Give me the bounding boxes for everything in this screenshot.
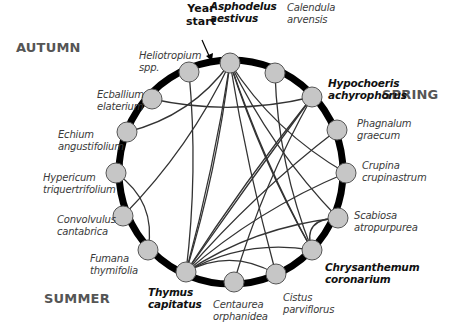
node-centaurea	[224, 272, 244, 292]
species-label-hypericum: Hypericum triquertrifolium	[43, 172, 116, 196]
species-label-ecballium: Ecballium elaterium	[97, 89, 144, 113]
node-asphodelus	[220, 53, 240, 73]
species-label-centaurea: Centaurea orphanidea	[213, 299, 268, 323]
species-label-cistus: Cistus parviflorus	[283, 292, 334, 316]
node-convolvulus	[113, 206, 133, 226]
species-label-hypochoeris: Hypochoeris achyrophorus	[328, 77, 407, 101]
species-label-scabiosa: Scabiosa atropurpurea	[354, 210, 418, 234]
species-label-crupina: Crupina crupinastrum	[362, 160, 426, 184]
node-ecballium	[142, 89, 162, 109]
node-thymus	[176, 262, 196, 282]
edge-asphodelus-chrysanthemum	[230, 63, 312, 250]
node-phagnalum	[327, 120, 347, 140]
node-cistus	[266, 264, 286, 284]
node-chrysanthemum	[302, 240, 322, 260]
edge-asphodelus-chrysanthemum	[230, 63, 312, 250]
node-calendula	[265, 63, 285, 83]
season-label-autumn: AUTUMN	[16, 40, 81, 55]
species-label-phagnalum: Phagnalum graecum	[357, 118, 411, 142]
edge-hypochoeris-centaurea	[234, 97, 312, 282]
year-start-arrow-icon	[202, 40, 213, 61]
species-label-calendula: Calendula arvensis	[287, 2, 335, 26]
species-label-asphodelus: Asphodelus aestivus	[210, 0, 277, 24]
node-crupina	[336, 163, 356, 183]
species-label-convolvulus: Convolvulus cantabrica	[57, 214, 116, 238]
season-label-summer: SUMMER	[44, 291, 110, 306]
species-label-thymus: Thymus capitatus	[148, 286, 201, 310]
node-scabiosa	[328, 208, 348, 228]
species-label-heliotropium: Heliotropium spp.	[139, 50, 201, 74]
species-label-fumana: Fumana thymifolia	[90, 253, 138, 277]
edge-hypochoeris-thymus	[186, 97, 312, 272]
species-label-chrysanthemum: Chrysanthemum coronarium	[325, 261, 419, 285]
node-hypochoeris	[302, 87, 322, 107]
edge-hypochoeris-ecballium	[152, 97, 312, 107]
node-fumana	[138, 240, 158, 260]
species-label-echium: Echium angustifolium	[58, 129, 124, 153]
edge-convolvulus-asphodelus	[123, 63, 230, 216]
